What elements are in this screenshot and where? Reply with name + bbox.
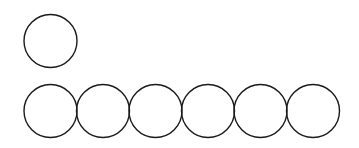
circles-diagram [0, 0, 359, 148]
bottom-circle-3 [129, 85, 182, 138]
bottom-circle-2 [77, 85, 130, 138]
bottom-circle-4 [182, 85, 235, 138]
top-circle-1 [24, 15, 77, 68]
bottom-circle-1 [24, 85, 77, 138]
bottom-circle-5 [234, 85, 287, 138]
bottom-circle-6 [287, 85, 340, 138]
top-row-circles [24, 15, 77, 68]
bottom-row-circles [24, 85, 340, 138]
